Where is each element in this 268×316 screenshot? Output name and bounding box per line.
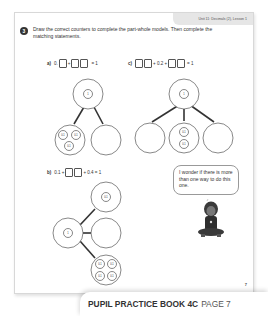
part-circle (91, 255, 121, 285)
part-circle[interactable] (203, 123, 233, 153)
counter-label: 0.1 (98, 262, 102, 266)
face (207, 206, 216, 216)
connector-line (94, 107, 103, 124)
book-title: PUPIL PRACTICE BOOK 4C (88, 299, 198, 309)
connector-line (80, 209, 95, 225)
counter-label: 0.1 (182, 130, 186, 134)
book-footer-tab: PUPIL PRACTICE BOOK 4C PAGE 7 (80, 292, 268, 316)
counter-label: 0.1 (67, 144, 71, 148)
part-circle[interactable] (91, 218, 121, 248)
character-illustration (196, 199, 226, 245)
footer-page-label: PAGE 7 (201, 299, 231, 309)
part-whole-diagrams: 1 0.1 0.1 0.1 1 0.1 0.1 1 0.1 0.1 0.1 0.… (0, 0, 268, 316)
connector-line (80, 241, 95, 258)
connector-line (74, 107, 84, 124)
part-circle[interactable] (135, 123, 165, 153)
counter-label: 0.1 (98, 274, 102, 278)
part-whole-model-b (53, 182, 121, 285)
counter-label: 0.1 (110, 262, 114, 266)
counter-label: 0.1 (110, 274, 114, 278)
counter-label: 0.1 (182, 142, 186, 146)
part-circle[interactable] (91, 125, 121, 155)
part-whole-model-a (55, 79, 121, 155)
counter-label: 0.1 (61, 133, 65, 137)
counter-label: 0.1 (104, 195, 108, 199)
counter-label: 0.1 (74, 133, 78, 137)
speech-bubble: I wonder if there is more than one way t… (173, 165, 239, 195)
connector-line (190, 105, 214, 122)
part-whole-model-c (135, 79, 233, 153)
connector-line (152, 105, 179, 122)
